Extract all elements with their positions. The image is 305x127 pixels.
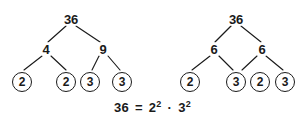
left-tree-leaf-4: 3 <box>112 72 132 92</box>
factorization-equation: 36 = 22 · 32 <box>0 100 305 115</box>
left-tree-leaf-2: 2 <box>56 72 76 92</box>
right-factor-tree: 36 6 6 2 3 2 3 <box>153 0 305 97</box>
left-tree-leaf-1: 2 <box>12 72 32 92</box>
factor-tree-figure: 36 4 9 2 2 3 3 36 6 6 2 3 2 3 36 = 22 · … <box>0 0 305 127</box>
equation-exponent-2: 2 <box>186 99 191 109</box>
right-tree-mid-node-1: 6 <box>209 43 218 56</box>
edge-leftmid-to-leaf1 <box>192 56 210 70</box>
left-tree-root-node: 36 <box>63 13 79 26</box>
right-tree-leaf-4: 3 <box>275 72 295 92</box>
edge-leftmid-to-leaf1 <box>24 56 42 70</box>
edge-leftmid-to-leaf2 <box>51 56 66 70</box>
edge-leftmid-to-leaf2 <box>219 56 233 70</box>
left-tree-mid-node-1: 4 <box>41 43 50 56</box>
edge-rightmid-to-leaf4 <box>108 56 120 70</box>
left-factor-tree: 36 4 9 2 2 3 3 <box>0 0 152 97</box>
left-tree-mid-node-2: 9 <box>98 43 107 56</box>
edge-root-to-right-mid <box>76 26 100 42</box>
edge-root-to-right-mid <box>241 26 261 42</box>
equation-equals-sign: = <box>135 100 143 115</box>
right-tree-leaf-3: 2 <box>250 72 270 92</box>
edge-root-to-left-mid <box>215 26 231 42</box>
right-tree-leaf-1: 2 <box>180 72 200 92</box>
edge-rightmid-to-leaf3 <box>242 56 257 70</box>
right-tree-leaf-2: 3 <box>226 72 246 92</box>
left-tree-leaf-3: 3 <box>80 72 100 92</box>
edge-rightmid-to-leaf4 <box>266 56 283 70</box>
edge-rightmid-to-leaf3 <box>92 56 99 70</box>
equation-left-value: 36 <box>114 100 129 115</box>
edge-root-to-left-mid <box>48 26 66 42</box>
right-tree-mid-node-2: 6 <box>257 43 266 56</box>
right-tree-root-node: 36 <box>228 13 244 26</box>
equation-base-2: 3 <box>178 100 186 115</box>
equation-exponent-1: 2 <box>156 99 161 109</box>
